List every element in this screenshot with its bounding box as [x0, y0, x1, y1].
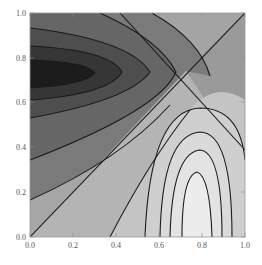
x-tick-label: 0.8: [197, 241, 207, 250]
x-axis-labels: 0.0 0.2 0.4 0.6 0.8 1.0: [25, 241, 250, 250]
x-tick-label: 0.0: [25, 241, 35, 250]
x-tick-label: 1.0: [240, 241, 250, 250]
x-tick-label: 0.2: [68, 241, 78, 250]
y-tick-label: 0.6: [16, 98, 26, 107]
y-tick-label: 0.8: [16, 54, 26, 63]
y-tick-label: 0.2: [16, 188, 26, 197]
y-axis-labels: 0.0 0.2 0.4 0.6 0.8 1.0: [16, 9, 26, 242]
y-tick-label: 1.0: [16, 9, 26, 18]
x-tick-label: 0.4: [111, 241, 121, 250]
contour-plot: 0.0 0.2 0.4 0.6 0.8 1.0 0.0 0.2 0.4 0.6 …: [0, 0, 262, 265]
y-tick-label: 0.4: [16, 143, 26, 152]
y-tick-label: 0.0: [16, 233, 26, 242]
x-tick-label: 0.6: [154, 241, 164, 250]
